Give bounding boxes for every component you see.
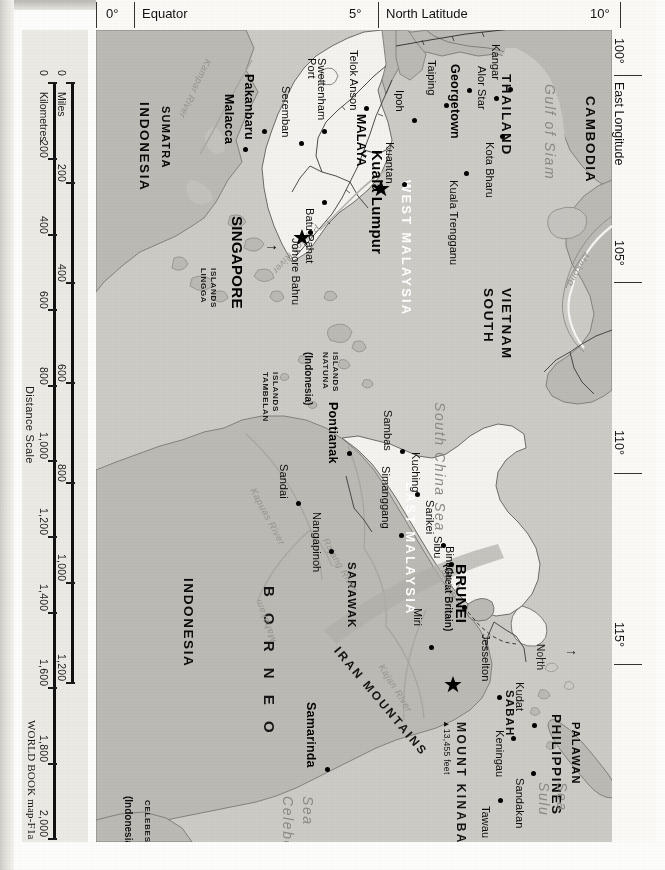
city-dot-pakanbaru[interactable] bbox=[262, 129, 267, 134]
city-dot-kudat[interactable] bbox=[532, 723, 537, 728]
km-label-1000: 1,000 bbox=[38, 432, 50, 459]
city-dot-telok-anson[interactable] bbox=[364, 106, 369, 111]
longitude-divider-105 bbox=[614, 282, 642, 283]
km-label-1200: 1,200 bbox=[38, 508, 50, 535]
city-dot-kota-bharu[interactable] bbox=[500, 134, 505, 139]
city-dot-port-swettenham[interactable] bbox=[322, 129, 327, 134]
city-dot-nangapinoh[interactable] bbox=[329, 549, 334, 554]
km-tick-800 bbox=[48, 385, 57, 387]
miles-tick-400 bbox=[66, 282, 75, 284]
city-dot-bintulu[interactable] bbox=[462, 605, 467, 610]
map-credit: WORLD BOOK map-F1a bbox=[26, 720, 38, 840]
miles-tick-1200 bbox=[66, 682, 75, 684]
city-dot-malacca[interactable] bbox=[243, 147, 248, 152]
latitude-tick-10: 10° bbox=[590, 6, 610, 21]
city-dot-jesselton[interactable] bbox=[497, 695, 502, 700]
city-dot-taiping[interactable] bbox=[444, 103, 449, 108]
miles-tick-0 bbox=[66, 82, 75, 84]
city-dot-ipoh[interactable] bbox=[412, 118, 417, 123]
city-dot-simanggang[interactable] bbox=[399, 533, 404, 538]
km-tick-0 bbox=[48, 82, 57, 84]
scale-unit-kilometres: Kilometres bbox=[38, 92, 50, 142]
axis-divider-0 bbox=[134, 2, 135, 28]
city-dot-kuching[interactable] bbox=[415, 492, 420, 497]
latitude-tick-5: 5° bbox=[349, 6, 361, 21]
map-canvas[interactable]: THAILAND CAMBODIA SOUTH VIETNAM PHILIPPI… bbox=[96, 30, 612, 842]
km-label-1600: 1,600 bbox=[38, 659, 50, 686]
miles-label-1200: 1,200 bbox=[56, 654, 68, 681]
latitude-tick-0: 0° bbox=[106, 6, 118, 21]
longitude-tick-105: 105° bbox=[612, 240, 626, 266]
km-label-2000: 2,000 bbox=[38, 810, 50, 837]
miles-tick-1000 bbox=[66, 582, 75, 584]
scale-unit-miles: Miles bbox=[56, 92, 68, 117]
city-dot-keningau[interactable] bbox=[511, 736, 516, 741]
city-dot-kuantan[interactable] bbox=[402, 182, 407, 187]
longitude-tick-100: 100° bbox=[612, 38, 626, 64]
miles-label-1000: 1,000 bbox=[56, 554, 68, 581]
miles-label-800: 800 bbox=[56, 464, 68, 482]
longitude-axis: 100° East Longitude 105° 110° 115° bbox=[612, 30, 656, 842]
latitude-name-equator: Equator bbox=[142, 6, 188, 21]
km-tick-200 bbox=[48, 158, 57, 160]
city-dot-pontianak[interactable] bbox=[347, 451, 352, 456]
north-tick-mark bbox=[536, 658, 546, 659]
km-tick-400 bbox=[48, 234, 57, 236]
km-tick-1800 bbox=[48, 763, 57, 765]
km-label-1400: 1,400 bbox=[38, 584, 50, 611]
km-tick-600 bbox=[48, 309, 57, 311]
km-label-200: 200 bbox=[38, 140, 50, 158]
city-dot-tawau[interactable] bbox=[498, 798, 503, 803]
miles-tick-800 bbox=[66, 482, 75, 484]
city-dot-sandakan[interactable] bbox=[531, 771, 536, 776]
city-dot-sarikei[interactable] bbox=[441, 543, 446, 548]
axis-divider-left bbox=[96, 2, 97, 28]
distance-scale-title: Distance Scale bbox=[24, 386, 36, 464]
city-dot-miri[interactable] bbox=[429, 645, 434, 650]
latitude-name-north: North Latitude bbox=[386, 6, 468, 21]
city-dot-sandai[interactable] bbox=[296, 501, 301, 506]
miles-label-200: 200 bbox=[56, 164, 68, 182]
city-dot-alor-star[interactable] bbox=[494, 96, 499, 101]
km-label-800: 800 bbox=[38, 367, 50, 385]
capital-marker-brunei[interactable] bbox=[444, 676, 462, 694]
km-label-400: 400 bbox=[38, 216, 50, 234]
km-label-600: 600 bbox=[38, 291, 50, 309]
capital-marker-singapore[interactable] bbox=[293, 229, 311, 247]
longitude-divider-110 bbox=[614, 473, 642, 474]
miles-label-400: 400 bbox=[56, 264, 68, 282]
miles-label-0: 0 bbox=[56, 70, 68, 76]
longitude-tick-110: 110° bbox=[612, 430, 626, 455]
miles-label-600: 600 bbox=[56, 364, 68, 382]
miles-tick-600 bbox=[66, 382, 75, 384]
map-page: THAILAND CAMBODIA SOUTH VIETNAM PHILIPPI… bbox=[0, 0, 665, 870]
longitude-tick-115: 115° bbox=[612, 622, 626, 647]
city-dot-kuala-trengganu[interactable] bbox=[464, 171, 469, 176]
city-dot-sambas[interactable] bbox=[400, 449, 405, 454]
city-dot-samarinda[interactable] bbox=[325, 767, 330, 772]
city-dot-sibu[interactable] bbox=[449, 562, 454, 567]
km-tick-1000 bbox=[48, 460, 57, 462]
km-tick-1600 bbox=[48, 687, 57, 689]
km-tick-1400 bbox=[48, 612, 57, 614]
distance-scale-panel: Miles Kilometres Distance Scale WORLD BO… bbox=[22, 30, 88, 842]
miles-tick-200 bbox=[66, 182, 75, 184]
km-tick-1200 bbox=[48, 536, 57, 538]
longitude-divider-100 bbox=[614, 75, 642, 76]
latitude-axis: 0° Equator 5° North Latitude 10° bbox=[96, 0, 656, 30]
longitude-axis-name: East Longitude bbox=[612, 82, 626, 165]
city-dot-batu-pahat[interactable] bbox=[322, 200, 327, 205]
capital-marker-kuala-lumpur[interactable] bbox=[372, 180, 390, 198]
page-edge-gutter bbox=[0, 0, 14, 870]
city-dot-georgetown[interactable] bbox=[467, 88, 472, 93]
km-label-1800: 1,800 bbox=[38, 735, 50, 762]
longitude-divider-115 bbox=[614, 664, 642, 665]
axis-divider-10 bbox=[620, 2, 621, 28]
map-geometry bbox=[96, 30, 612, 842]
city-dot-seremban[interactable] bbox=[299, 141, 304, 146]
city-dot-kangar[interactable] bbox=[508, 87, 513, 92]
km-tick-2000 bbox=[48, 838, 57, 840]
km-label-0: 0 bbox=[38, 70, 50, 76]
axis-divider-5 bbox=[378, 2, 379, 28]
